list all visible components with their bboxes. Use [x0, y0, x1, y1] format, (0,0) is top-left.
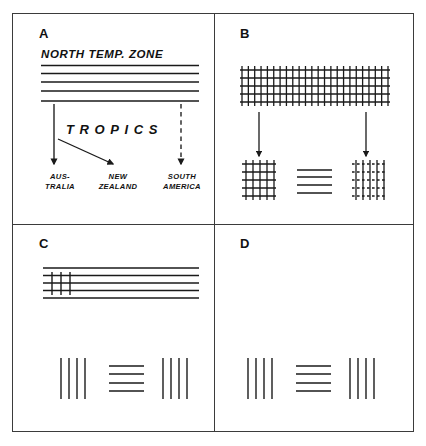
panel-c-graphics: [13, 224, 214, 433]
grid-dashed-right-verticals: [356, 160, 384, 200]
grid-solid-left: [242, 160, 276, 200]
large-grid: [240, 66, 390, 106]
region-label-new-zealand: NEW ZEALAND: [89, 172, 147, 192]
panel-a: A NORTH TEMP. ZONE TRO: [13, 14, 214, 224]
horizontal-only-middle: [109, 366, 144, 391]
panel-b: B: [214, 14, 415, 224]
vertical-only-left: [248, 358, 272, 399]
tropics-label: TROPICS: [66, 122, 163, 137]
region-label-new-zealand-line2: ZEALAND: [89, 182, 147, 192]
panel-a-graphics: [13, 14, 214, 224]
grid-dashed-right: [352, 160, 386, 200]
large-grid-horizontals: [240, 70, 390, 102]
region-label-south-america-line2: AMERICA: [151, 182, 213, 192]
region-label-australia-line1: AUS-: [35, 172, 85, 182]
region-label-south-america: SOUTH AMERICA: [151, 172, 213, 192]
horizontal-band: [43, 268, 199, 298]
panel-c: C: [13, 224, 214, 433]
vertical-only-left: [61, 358, 85, 399]
grid-dashed-right-horizontals: [352, 164, 386, 196]
figure-frame: A NORTH TEMP. ZONE TRO: [12, 13, 414, 432]
arrow-to-new-zealand: [58, 139, 113, 164]
vertical-only-right: [163, 358, 187, 399]
band-lines-group: [41, 66, 199, 102]
horizontal-only-middle: [297, 170, 332, 193]
horizontal-only-middle: [296, 366, 331, 391]
region-label-new-zealand-line1: NEW: [89, 172, 147, 182]
region-label-south-america-line1: SOUTH: [151, 172, 213, 182]
region-label-australia-line2: TRALIA: [35, 182, 85, 192]
panel-b-graphics: [214, 14, 415, 224]
vertical-only-right: [350, 358, 374, 399]
region-label-australia: AUS- TRALIA: [35, 172, 85, 192]
panel-d: D: [214, 224, 415, 433]
panel-d-graphics: [214, 224, 415, 433]
